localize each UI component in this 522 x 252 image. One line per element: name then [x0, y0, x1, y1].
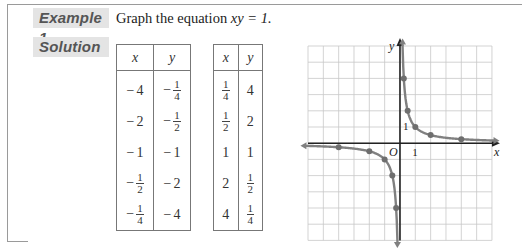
table-row: 212	[214, 168, 263, 199]
table-row: −2−12	[117, 106, 191, 137]
values-table-negative: xy −4−14 −2−12 −1−1 −12−2 −14−4	[116, 44, 191, 231]
table-row: 11	[214, 137, 263, 168]
table-cell: −12	[117, 168, 154, 199]
column-header-x: x	[214, 45, 239, 71]
table-row: −12−2	[117, 168, 191, 199]
example-label: Example 1	[33, 8, 109, 28]
table-cell: 2	[214, 168, 239, 199]
table-cell: −12	[154, 106, 191, 137]
data-point	[393, 205, 399, 211]
table-row: 122	[214, 106, 263, 137]
x-tick-label: 1	[412, 146, 418, 158]
table-cell: 12	[214, 106, 239, 137]
table-row: −1−1	[117, 137, 191, 168]
table-cell: 14	[238, 199, 263, 231]
table-row: 144	[214, 71, 263, 107]
table-cell: −1	[154, 137, 191, 168]
origin-label: O	[389, 145, 398, 159]
y-axis-label: y	[388, 39, 395, 53]
column-header-y: y	[238, 45, 263, 71]
table-cell: −4	[117, 71, 154, 107]
table-row: −4−14	[117, 71, 191, 107]
table-cell: −14	[154, 71, 191, 107]
table-cell: −14	[117, 199, 154, 231]
equation: xy = 1.	[231, 10, 272, 26]
frame-bottom-border	[7, 241, 28, 242]
table-cell: −4	[154, 199, 191, 231]
data-point	[428, 132, 434, 138]
table-cell: 4	[214, 199, 239, 231]
data-point	[382, 156, 388, 162]
data-point	[405, 108, 411, 114]
data-point	[366, 148, 372, 154]
hyperbola-graph: x y O 1 1	[300, 38, 510, 248]
table-cell: 14	[214, 71, 239, 107]
table-cell: −2	[154, 168, 191, 199]
prompt-text: Graph the equation	[116, 10, 231, 26]
table-cell: 12	[238, 168, 263, 199]
y-tick-label: 1	[403, 120, 409, 132]
table-cell: 1	[238, 137, 263, 168]
data-point	[401, 75, 407, 81]
data-point	[336, 144, 342, 150]
data-point	[458, 136, 464, 142]
data-point	[412, 124, 418, 130]
table-cell: 2	[238, 106, 263, 137]
table-row: −14−4	[117, 199, 191, 231]
example-prompt: Graph the equation xy = 1.	[116, 9, 272, 27]
frame-top-border	[7, 4, 522, 5]
table-cell: 1	[214, 137, 239, 168]
column-header-y: y	[154, 45, 191, 71]
x-axis-label: x	[493, 145, 500, 159]
data-point	[389, 173, 395, 179]
frame-left-border	[7, 4, 8, 242]
table-row: 414	[214, 199, 263, 231]
table-cell: 4	[238, 71, 263, 107]
solution-label: Solution	[33, 37, 109, 57]
table-cell: −2	[117, 106, 154, 137]
column-header-x: x	[117, 45, 154, 71]
values-table-positive: xy 144 122 11 212 414	[213, 44, 263, 231]
table-cell: −1	[117, 137, 154, 168]
